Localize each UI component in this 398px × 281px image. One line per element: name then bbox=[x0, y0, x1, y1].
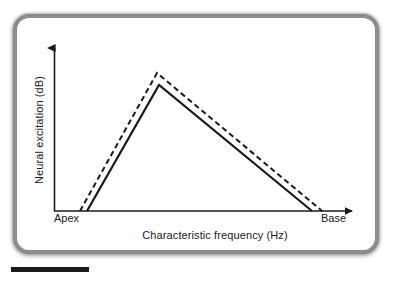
x-tick-label-apex: Apex bbox=[54, 212, 79, 224]
series-solid-excitation bbox=[87, 85, 312, 211]
y-axis-label: Neural excitation (dB) bbox=[33, 54, 45, 206]
figure-scale-bar bbox=[11, 267, 89, 272]
x-tick-label-base: Base bbox=[321, 212, 346, 224]
figure-root: Neural excitation (dB) Characteristic fr… bbox=[0, 0, 398, 281]
x-axis-label: Characteristic frequency (Hz) bbox=[90, 229, 340, 241]
